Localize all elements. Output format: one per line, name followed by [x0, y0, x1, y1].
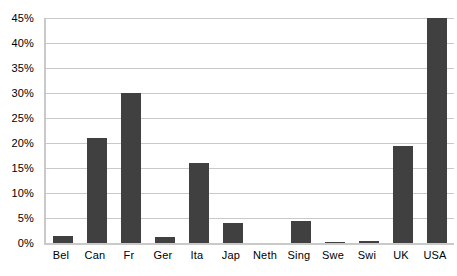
y-tick-label: 25% — [11, 112, 34, 124]
x-tick-label: Ger — [154, 249, 173, 261]
bar — [325, 242, 345, 243]
x-tick-label: Can — [85, 249, 106, 261]
x-tick-label: Fr — [124, 249, 135, 261]
x-tick-label: Neth — [253, 249, 277, 261]
x-tick-label: Swi — [358, 249, 376, 261]
y-tick-label: 15% — [11, 162, 34, 174]
y-tick-label: 10% — [11, 187, 34, 199]
bar-series — [46, 18, 454, 243]
y-tick-label: 35% — [11, 62, 34, 74]
bar — [155, 237, 175, 243]
bar-chart: 0%5%10%15%20%25%30%35%40%45% BelCanFrGer… — [0, 0, 457, 276]
y-tick-label: 0% — [18, 237, 34, 249]
bar — [223, 223, 243, 243]
bar — [291, 221, 311, 244]
x-tick-label: UK — [393, 249, 409, 261]
x-tick-label: Bel — [53, 249, 70, 261]
y-tick-label: 40% — [11, 37, 34, 49]
plot-area — [44, 18, 454, 245]
x-tick-label: Jap — [222, 249, 240, 261]
bar — [393, 146, 413, 244]
y-tick-label: 20% — [11, 137, 34, 149]
x-tick-label: Sing — [288, 249, 311, 261]
x-tick-label: Swe — [322, 249, 344, 261]
y-tick-label: 30% — [11, 87, 34, 99]
bar — [87, 138, 107, 243]
y-tick-label: 5% — [18, 212, 34, 224]
bar — [359, 241, 379, 243]
x-tick-label: Ita — [191, 249, 204, 261]
x-axis-tick-labels: BelCanFrGerItaJapNethSingSweSwiUKUSA — [44, 249, 452, 271]
bar — [121, 93, 141, 243]
y-axis-tick-labels: 0%5%10%15%20%25%30%35%40%45% — [0, 0, 40, 276]
x-tick-label: USA — [423, 249, 446, 261]
bar — [189, 163, 209, 243]
y-tick-label: 45% — [11, 12, 34, 24]
bar — [427, 18, 447, 243]
bar — [53, 236, 73, 244]
